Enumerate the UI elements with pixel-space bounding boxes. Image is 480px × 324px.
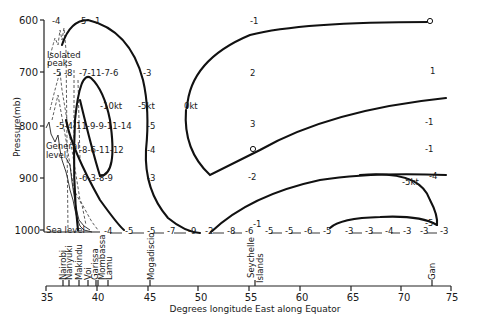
- svg-text:-5: -5: [265, 226, 273, 236]
- zero-marker-mid: [250, 146, 255, 151]
- svg-text:2: 2: [250, 68, 255, 78]
- contour-label-m5kt: -5kt: [138, 101, 155, 111]
- svg-text:-5: -5: [285, 226, 293, 236]
- y-tick-600: 600: [19, 15, 38, 26]
- station-nanyuki: Nanyuki: [64, 245, 74, 280]
- svg-text:-9: -9: [188, 226, 196, 236]
- x-tick-40: 40: [92, 292, 105, 303]
- x-tick-45: 45: [144, 292, 157, 303]
- svg-text:-2: -2: [248, 172, 256, 182]
- values-800: -5-4-11-9-9-11-14 -5 3 -1: [56, 117, 433, 131]
- x-ticks: [46, 286, 451, 291]
- x-axis-label: Degrees longitude East along Equator: [169, 304, 340, 314]
- contour-label-m5kt-right: -5kt: [402, 177, 419, 187]
- contour-label-0kt: 0kt: [184, 101, 198, 111]
- y-tick-700: 700: [19, 67, 38, 78]
- svg-text:-1: -1: [425, 144, 433, 154]
- svg-text:-4: -4: [104, 226, 112, 236]
- svg-text:-4: -4: [385, 226, 393, 236]
- x-tick-65: 65: [347, 292, 360, 303]
- station-mogadiscio: Mogadiscio: [146, 232, 156, 280]
- x-tick-50: 50: [195, 292, 208, 303]
- svg-text:-1: -1: [425, 117, 433, 127]
- values-850: -8-6-11-12 -4 -1: [79, 144, 433, 155]
- svg-text:-5: -5: [125, 226, 133, 236]
- svg-text:-6: -6: [304, 226, 312, 236]
- svg-text:-6-3-8-9: -6-3-8-9: [79, 173, 113, 183]
- zero-marker-top: [427, 18, 432, 23]
- svg-text:-2: -2: [205, 226, 213, 236]
- svg-text:-7: -7: [167, 226, 175, 236]
- svg-text:-5: -5: [425, 218, 433, 228]
- contour-label-m10kt: -10kt: [100, 101, 123, 111]
- station-lamu: Lamu: [104, 256, 114, 280]
- svg-text:-3: -3: [143, 68, 151, 78]
- svg-text:-1: -1: [92, 16, 100, 26]
- svg-text:-3: -3: [403, 226, 411, 236]
- y-tick-1000: 1000: [15, 225, 40, 236]
- y-tick-900: 900: [19, 173, 38, 184]
- station-islands: Islands: [255, 253, 265, 283]
- values-600: -4 -5 -1 -1: [52, 16, 258, 26]
- svg-text:-3: -3: [440, 226, 448, 236]
- x-tick-75: 75: [446, 292, 459, 303]
- svg-text:-8: -8: [227, 226, 235, 236]
- svg-text:-7-11-7-6: -7-11-7-6: [79, 68, 118, 78]
- values-700: -5 -8 -7-11-7-6 -3 2 1: [53, 66, 435, 78]
- x-tick-70: 70: [398, 292, 411, 303]
- svg-text:-5-4-11-9-9-11-14: -5-4-11-9-9-11-14: [56, 121, 132, 131]
- x-tick-60: 60: [296, 292, 309, 303]
- svg-text:-5: -5: [147, 121, 155, 131]
- svg-text:3: 3: [250, 119, 255, 129]
- station-gan: Gan: [427, 263, 437, 280]
- svg-text:-5: -5: [53, 68, 61, 78]
- svg-text:-1: -1: [250, 16, 258, 26]
- svg-text:1: 1: [430, 66, 435, 76]
- svg-text:-4: -4: [147, 145, 155, 155]
- svg-text:-1: -1: [253, 219, 261, 229]
- svg-text:-4: -4: [52, 16, 60, 26]
- svg-text:-5: -5: [78, 16, 86, 26]
- svg-text:-5: -5: [323, 226, 331, 236]
- svg-text:-3: -3: [147, 173, 155, 183]
- x-tick-35: 35: [41, 292, 54, 303]
- svg-text:-3: -3: [365, 226, 373, 236]
- annotation-peaks: peaks: [47, 58, 73, 68]
- y-axis-label: Pressure(mb): [12, 97, 22, 157]
- x-tick-55: 55: [245, 292, 258, 303]
- svg-text:-5: -5: [147, 226, 155, 236]
- svg-text:-8-6-11-12: -8-6-11-12: [79, 145, 124, 155]
- annotation-level: level: [46, 150, 66, 160]
- svg-text:-4: -4: [429, 171, 437, 181]
- svg-text:-3: -3: [345, 226, 353, 236]
- station-markers: [63, 280, 432, 286]
- wind-contour-chart: 600 700 800 900 1000 Pressure(mb) 35 40 …: [0, 0, 480, 324]
- values-900: -6-3-8-9 -3 -2 -4: [79, 171, 437, 183]
- svg-text:-8: -8: [64, 68, 72, 78]
